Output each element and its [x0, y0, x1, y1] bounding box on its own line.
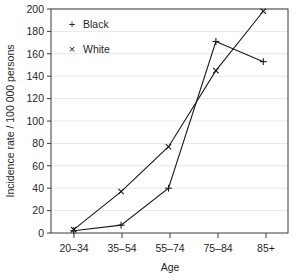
y-tick-label: 0	[38, 227, 44, 239]
y-axis-tick-labels: 200 180 160 140 120 100 80 60 40 20 0	[26, 3, 44, 239]
y-tick-label: 200	[26, 3, 44, 15]
y-axis-tickmarks	[47, 9, 51, 233]
chart-container: 200 180 160 140 120 100 80 60 40 20 0 20…	[0, 0, 297, 280]
y-tick-label: 180	[26, 25, 44, 37]
legend-item-white-label: White	[83, 43, 110, 55]
incidence-rate-line-chart: 200 180 160 140 120 100 80 60 40 20 0 20…	[0, 0, 297, 280]
x-axis-title: Age	[161, 261, 180, 273]
y-tick-label: 160	[26, 48, 44, 60]
y-tick-label: 40	[32, 182, 44, 194]
y-tick-label: 140	[26, 70, 44, 82]
legend-plus-icon: +	[69, 18, 75, 30]
y-tick-label: 80	[32, 137, 44, 149]
x-tick-label: 85+	[257, 242, 275, 254]
y-tick-label: 20	[32, 204, 44, 216]
y-tick-label: 100	[26, 115, 44, 127]
y-tick-label: 120	[26, 92, 44, 104]
x-tick-label: 55–74	[155, 242, 184, 254]
y-axis-title: Incidence rate / 100 000 persons	[4, 45, 16, 198]
x-tick-label: 75–84	[203, 242, 232, 254]
x-axis-tick-labels: 20–34 35–54 55–74 75–84 85+	[59, 242, 275, 254]
x-axis-tickmarks	[74, 233, 266, 238]
x-tick-label: 35–54	[107, 242, 136, 254]
y-tick-label: 60	[32, 160, 44, 172]
x-tick-label: 20–34	[59, 242, 88, 254]
legend-item-black-label: Black	[83, 18, 109, 30]
legend-cross-icon: ×	[69, 43, 75, 55]
